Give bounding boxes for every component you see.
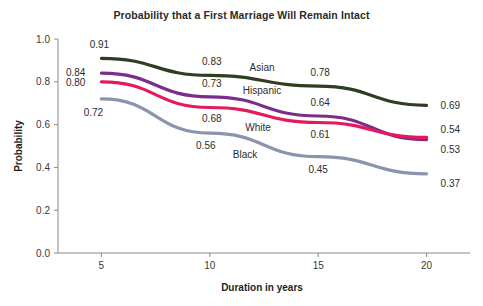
point-value-label: 0.91 (90, 39, 110, 50)
point-value-label: 0.80 (66, 77, 86, 88)
point-value-label: 0.69 (441, 100, 461, 111)
chart-figure: Probability that a First Marriage Will R… (0, 0, 483, 306)
x-tick-label: 10 (204, 260, 216, 271)
point-value-label: 0.54 (441, 124, 461, 135)
chart-series-lines (101, 58, 426, 174)
x-tick-label: 5 (99, 260, 105, 271)
y-axis-title: Probability (13, 120, 24, 172)
x-tick-label: 20 (421, 260, 433, 271)
series-name-label-black: Black (233, 149, 258, 160)
y-tick-label: 0.6 (36, 119, 50, 130)
point-value-label: 0.56 (196, 140, 216, 151)
y-tick-label: 0.2 (36, 205, 50, 216)
series-name-label-hispanic: Hispanic (243, 85, 281, 96)
chart-canvas: 0.00.20.40.60.81.05101520Duration in yea… (0, 0, 483, 306)
point-value-label: 0.37 (441, 178, 461, 189)
point-value-label: 0.53 (441, 144, 461, 155)
point-value-label: 0.61 (310, 129, 330, 140)
point-value-label: 0.72 (84, 107, 104, 118)
y-tick-label: 0.4 (36, 162, 50, 173)
series-name-label-white: White (245, 122, 271, 133)
x-tick-label: 15 (313, 260, 325, 271)
point-value-label: 0.78 (310, 67, 330, 78)
y-tick-label: 1.0 (36, 34, 50, 45)
x-axis-title: Duration in years (221, 282, 303, 293)
point-value-label: 0.68 (202, 113, 222, 124)
point-value-label: 0.73 (202, 78, 222, 89)
y-tick-label: 0.8 (36, 76, 50, 87)
point-value-label: 0.45 (308, 164, 328, 175)
series-line-black (101, 99, 426, 174)
point-value-label: 0.83 (202, 56, 222, 67)
series-name-label-asian: Asian (249, 62, 274, 73)
point-value-label: 0.64 (310, 97, 330, 108)
y-tick-label: 0.0 (36, 248, 50, 259)
